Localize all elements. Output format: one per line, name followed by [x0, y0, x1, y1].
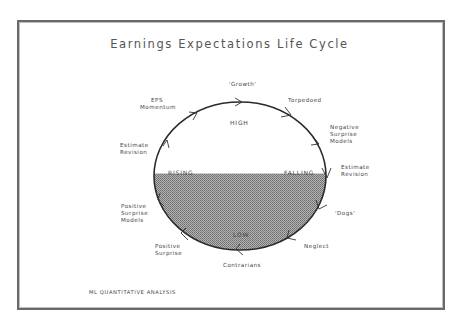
- stage-positive-surprise: Positive Surprise: [155, 243, 182, 257]
- stage-torpedoed: Torpedoed: [288, 97, 322, 104]
- stage-neglect: Neglect: [304, 243, 329, 250]
- life-cycle-ellipse: [0, 0, 459, 322]
- stage-negative-surprise-models: Negative Surprise Models: [330, 124, 359, 146]
- stage-estimate-revision-right: Estimate Revision: [341, 164, 370, 178]
- stage-dogs: 'Dogs': [335, 210, 355, 217]
- zone-label-high: HIGH: [230, 119, 249, 126]
- zone-label-falling: FALLING: [284, 169, 314, 176]
- stage-positive-surprise-models: Positive Surprise Models: [121, 203, 148, 225]
- zone-label-low: LOW: [233, 231, 249, 238]
- source-credit: ML QUANTITATIVE ANALYSIS: [89, 289, 176, 295]
- zone-label-rising: RISING: [168, 169, 193, 176]
- stage-eps-momentum: EPS Momentum: [140, 97, 174, 111]
- stage-estimate-revision-left: Estimate Revision: [120, 142, 149, 156]
- stage-growth: 'Growth': [229, 81, 256, 88]
- stage-contrarians: Contrarians: [223, 262, 261, 269]
